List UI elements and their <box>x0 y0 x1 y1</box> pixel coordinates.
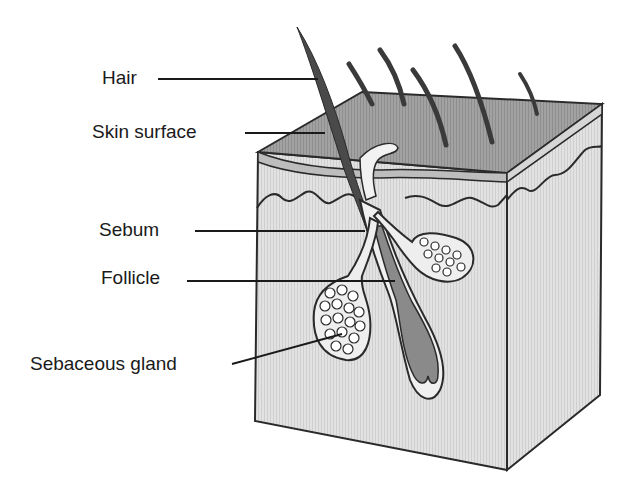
label-skin-surface: Skin surface <box>92 122 197 141</box>
skin-diagram <box>0 0 633 500</box>
label-sebaceous-gland: Sebaceous gland <box>30 354 177 373</box>
label-hair: Hair <box>102 68 137 87</box>
label-sebum: Sebum <box>99 220 159 239</box>
label-follicle: Follicle <box>101 268 160 287</box>
